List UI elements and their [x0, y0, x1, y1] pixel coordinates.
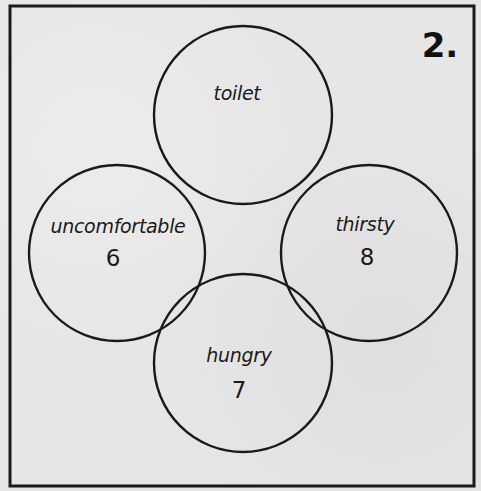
circle-label-uncomfortable: uncomfortable	[50, 215, 185, 237]
circle-toilet	[154, 26, 332, 204]
circle-label-thirsty: thirsty	[335, 213, 394, 235]
circle-value-uncomfortable: 6	[106, 245, 121, 271]
diagram-canvas	[0, 0, 481, 491]
comic-panel: 2. toilet uncomfortable 6 thirsty 8 hung…	[0, 0, 481, 491]
panel-border	[10, 6, 474, 486]
panel-number: 2.	[422, 25, 459, 65]
circle-label-toilet: toilet	[214, 82, 261, 104]
circle-value-hungry: 7	[232, 377, 247, 403]
circle-label-hungry: hungry	[206, 344, 271, 366]
circle-value-thirsty: 8	[360, 244, 375, 270]
